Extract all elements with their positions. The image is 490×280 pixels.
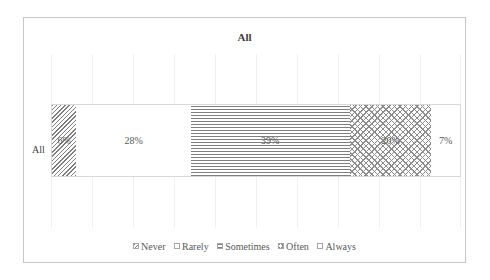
legend-item-often: Often	[278, 241, 309, 252]
legend-item-sometimes: Sometimes	[217, 241, 269, 252]
data-label: 7%	[439, 135, 452, 146]
data-label: 39%	[261, 135, 279, 146]
stacked-bar: 6% 28% 39% 20% 7%	[51, 104, 461, 177]
chart-title: All	[24, 31, 465, 43]
segment-never: 6%	[52, 105, 76, 176]
data-label: 6%	[58, 135, 71, 146]
always-swatch-icon	[317, 243, 323, 249]
often-swatch-icon	[278, 243, 284, 249]
data-label: 28%	[124, 135, 142, 146]
category-label: All	[32, 144, 45, 155]
sometimes-swatch-icon	[217, 243, 223, 249]
data-label: 20%	[381, 135, 399, 146]
segment-sometimes: 39%	[191, 105, 350, 176]
legend-item-always: Always	[317, 241, 356, 252]
never-swatch-icon	[133, 243, 139, 249]
rarely-swatch-icon	[174, 243, 180, 249]
segment-rarely: 28%	[76, 105, 190, 176]
chart-frame: All All 6% 28% 39% 20% 7% Never Rarely S…	[23, 17, 466, 263]
legend-item-rarely: Rarely	[174, 241, 209, 252]
segment-always: 7%	[431, 105, 460, 176]
legend: Never Rarely Sometimes Often Always	[24, 240, 465, 252]
legend-item-never: Never	[133, 241, 165, 252]
segment-often: 20%	[350, 105, 432, 176]
